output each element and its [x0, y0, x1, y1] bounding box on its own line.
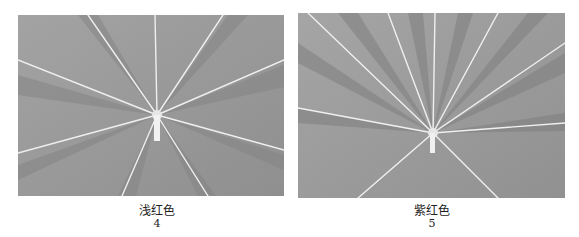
figure-caption-left: 浅红色 4 — [127, 204, 187, 230]
caption-number: 5 — [402, 218, 462, 230]
leaf-image-left — [18, 15, 284, 196]
caption-label: 紫红色 — [402, 204, 462, 218]
leaf-image-right — [298, 13, 565, 198]
figure-caption-right: 紫红色 5 — [402, 204, 462, 230]
caption-number: 4 — [127, 218, 187, 230]
leaf-photo-left — [18, 15, 284, 196]
caption-label: 浅红色 — [127, 204, 187, 218]
leaf-photo-right — [298, 13, 565, 198]
